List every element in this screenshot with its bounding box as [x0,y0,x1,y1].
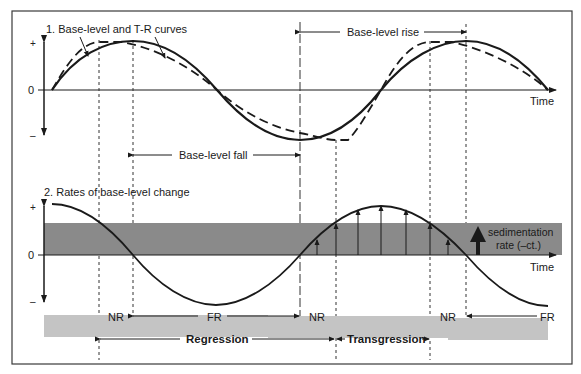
axis-plus-label: + [30,38,36,49]
sedimentation-label-2: rate (–ct.) [496,239,541,251]
axis-minus-label: – [30,296,36,307]
time-axis-label: Time [530,95,554,107]
base-level-rise-label: Base-level rise [347,26,419,38]
stage-nr-label: NR [440,311,456,323]
transgression-label: Transgression [347,333,426,345]
axis-zero-label: 0 [28,84,34,96]
stage-nr-label: NR [108,311,124,323]
panel-rates-of-change: 2. Rates of base-level change + 0 – Time [28,186,562,345]
axis-zero-label: 0 [28,249,34,261]
panel2-title: 2. Rates of base-level change [44,186,190,198]
regression-label: Regression [186,333,249,345]
base-level-diagram: + 0 – Time 1. Base-level and T-R curves … [0,0,581,374]
stage-fr-label: FR [540,311,555,323]
axis-plus-label: + [30,202,36,213]
stage-band [448,318,548,340]
sedimentation-label: sedimentation [488,226,554,238]
stage-nr-label: NR [309,311,325,323]
axis-minus-label: – [30,130,36,141]
panel1-title: 1. Base-level and T-R curves [46,23,188,35]
base-level-fall-label: Base-level fall [179,149,247,161]
stage-fr-label: FR [207,311,222,323]
time-axis-label: Time [530,261,554,273]
